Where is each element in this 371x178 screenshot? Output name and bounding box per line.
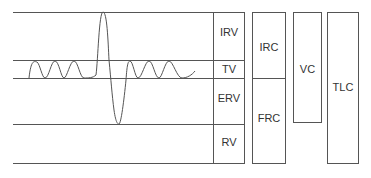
label-frc: FRC [252,112,286,124]
label-irc: IRC [252,41,286,53]
label-rv: RV [213,136,245,148]
label-tv: TV [213,63,245,75]
spirogram-graphic [0,0,371,178]
breathing-waveform [29,12,195,124]
lung-volumes-diagram: IRV TV ERV RV IRC FRC VC TLC [0,0,371,178]
label-vc: VC [293,63,322,75]
label-irv: IRV [213,26,245,38]
label-erv: ERV [213,92,245,104]
label-tlc: TLC [327,81,359,93]
irc-frc-box [253,13,286,164]
